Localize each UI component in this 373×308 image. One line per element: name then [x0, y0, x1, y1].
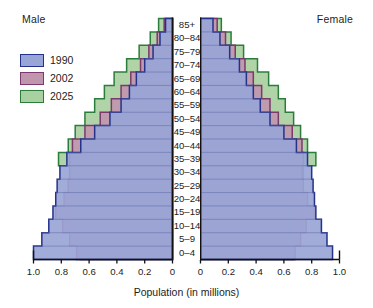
male-tick-label-0.6: 0.6	[77, 266, 101, 277]
male-side-title: Male	[22, 13, 46, 25]
female-tick-label-0.2: 0.2	[216, 266, 240, 277]
age-group-label-20-24: 20–24	[165, 193, 209, 204]
age-group-label-25-29: 25–29	[165, 180, 209, 191]
age-group-label-75-79: 75–79	[165, 46, 209, 57]
male-tick-label-0.8: 0.8	[49, 266, 73, 277]
legend-label-2025: 2025	[50, 90, 73, 103]
age-group-label-70-74: 70–74	[165, 59, 209, 70]
age-group-label-55-59: 55–59	[165, 99, 209, 110]
female-tick-label-0.4: 0.4	[244, 266, 268, 277]
age-group-label-40-44: 40–44	[165, 140, 209, 151]
legend-label-2002: 2002	[50, 72, 73, 85]
male-tick-label-1.0: 1.0	[22, 266, 46, 277]
age-group-label-85+: 85+	[165, 19, 209, 30]
chart-legend: 199020022025	[20, 52, 73, 106]
legend-label-1990: 1990	[50, 54, 73, 67]
male-tick-label-0.4: 0.4	[105, 266, 129, 277]
legend-swatch-2025	[20, 90, 44, 103]
female-tick-label-1.0: 1.0	[328, 266, 352, 277]
age-group-label-5-9: 5–9	[165, 233, 209, 244]
male-tick-label-0.2: 0.2	[133, 266, 157, 277]
legend-swatch-2002	[20, 72, 44, 85]
age-group-label-30-34: 30–34	[165, 166, 209, 177]
female-tick-label-0.6: 0.6	[272, 266, 296, 277]
female-side-title: Female	[317, 13, 353, 25]
age-group-label-10-14: 10–14	[165, 220, 209, 231]
age-group-label-65-69: 65–69	[165, 73, 209, 84]
age-group-label-45-49: 45–49	[165, 126, 209, 137]
age-group-label-60-64: 60–64	[165, 86, 209, 97]
age-group-label-80-84: 80–84	[165, 32, 209, 43]
legend-item-2025: 2025	[20, 88, 73, 105]
age-group-label-15-19: 15–19	[165, 206, 209, 217]
legend-swatch-1990	[20, 54, 44, 67]
age-group-label-35-39: 35–39	[165, 153, 209, 164]
age-group-label-50-54: 50–54	[165, 113, 209, 124]
population-pyramid-chart: Male Female 199020022025 85+80–8475–7970…	[0, 0, 373, 308]
x-axis-caption: Population (in millions)	[0, 286, 373, 298]
female-tick-label-0: 0	[189, 266, 213, 277]
female-tick-label-0.8: 0.8	[300, 266, 324, 277]
age-group-label-0-4: 0–4	[165, 247, 209, 258]
legend-item-2002: 2002	[20, 70, 73, 87]
male-tick-label-0: 0	[161, 266, 185, 277]
legend-item-1990: 1990	[20, 52, 73, 69]
